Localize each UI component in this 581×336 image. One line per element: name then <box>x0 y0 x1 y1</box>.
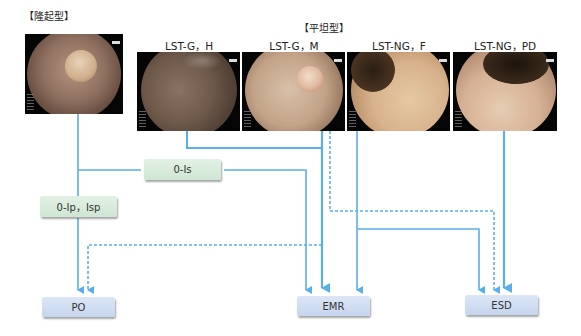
line-is-to-emr <box>224 170 306 290</box>
line-dashed-to-po <box>88 245 322 290</box>
line-lst-g-m-dashed-to-esd <box>330 131 494 290</box>
line-lst-g-h <box>187 131 322 148</box>
morphology-box-0-is: 0-Ⅰs <box>144 159 221 180</box>
treatment-box-po: PO <box>42 297 115 317</box>
line-lst-ng-f-to-esd <box>357 229 479 290</box>
treatment-box-emr: EMR <box>297 296 370 316</box>
morphology-box-0-ip-isp: 0-Ⅰp，Ⅰsp <box>40 196 117 217</box>
treatment-box-esd: ESD <box>465 295 538 315</box>
flow-connectors <box>0 0 581 336</box>
